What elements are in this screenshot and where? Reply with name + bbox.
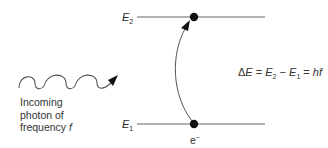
eq-e2: E <box>265 66 272 78</box>
photon-line-3-text: frequency <box>20 121 69 133</box>
eq-rhs: hf <box>313 66 322 78</box>
transition-arrow <box>175 27 192 121</box>
electron-dot-lower <box>190 120 198 128</box>
energy-level-e2-label: E2 <box>122 11 133 28</box>
frequency-symbol: f <box>69 121 72 133</box>
photon-wave <box>19 75 112 89</box>
transition-arrowhead-icon <box>181 20 190 31</box>
eq-equals-2: = <box>300 66 313 78</box>
energy-level-e1-label: E1 <box>122 118 133 135</box>
eq-equals-1: = <box>253 66 266 78</box>
photon-description: Incoming photon of frequency f <box>20 96 72 134</box>
energy-equation: ΔE = E2 − E1 = hf <box>238 66 322 83</box>
eq-minus: − <box>277 66 290 78</box>
photon-line-1: Incoming <box>20 96 72 109</box>
e2-subscript: 2 <box>129 18 133 25</box>
photon-line-2: photon of <box>20 109 72 122</box>
electron-label: e− <box>190 132 200 146</box>
electron-dot-upper <box>190 13 198 21</box>
eq-e: E <box>245 66 252 78</box>
photon-line-3: frequency f <box>20 121 72 134</box>
e1-subscript: 1 <box>129 125 133 132</box>
energy-level-diagram: E2 E1 Incoming photon of frequency f ΔE … <box>0 0 328 148</box>
electron-charge: − <box>196 134 200 141</box>
